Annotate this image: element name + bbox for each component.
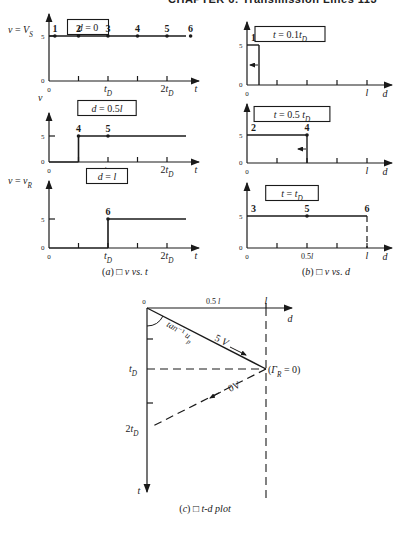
b-tick-label-l: l [366, 87, 369, 98]
a-point-label: 6 [106, 206, 111, 217]
a-caption: (a) □ v vs. t [102, 266, 148, 278]
a-tick-label-tD: tD [104, 250, 113, 265]
a-ylabel-1: v [38, 92, 43, 103]
b-tick-label-half: 0.5l [301, 252, 314, 261]
b-condition-box-2: t = tD [266, 186, 319, 203]
b-point-label: 3 [251, 203, 256, 214]
b-point-label: 2 [251, 122, 256, 133]
c-d-tick-half: 0.5 l [206, 297, 221, 306]
a-xlabel: t [195, 250, 198, 261]
b-v5-label: 5 [239, 132, 243, 140]
a-point-dot [77, 34, 81, 38]
b-point-label: 4 [305, 122, 310, 133]
a-tick-label-tD: tD [104, 83, 113, 98]
b-condition-box-1: t = 0.5 tD [254, 107, 330, 124]
a-condition-box-0: d = 0 [68, 20, 109, 35]
b-v0-label: 0 [239, 159, 243, 167]
b-v5-label: 5 [239, 42, 243, 50]
b-point-label: 6 [365, 203, 370, 214]
a-point-label: 5 [165, 23, 170, 34]
b-v0-label: 0 [239, 81, 243, 89]
b-tick-label-l: l [366, 250, 369, 261]
a-tick-label-2tD: 2tD [161, 83, 175, 98]
b-v5-label: 5 [239, 213, 243, 221]
a-condition-box-2: d = l [87, 169, 128, 184]
c-t-label: t [138, 485, 141, 496]
c-reflected-label: 0V [226, 378, 242, 393]
b-point-label: 5 [305, 203, 310, 214]
a-condition-box-2-text: d = l [98, 171, 117, 182]
b-condition-box-0: t = 0.1tD [255, 27, 325, 44]
b-point-dot [305, 214, 309, 218]
b-tick-label-l: l [366, 165, 369, 176]
a-v5-label: 5 [41, 216, 45, 224]
a-point-dot [106, 134, 110, 138]
a-condition-box-1: d = 0.5l [78, 101, 136, 116]
a-point-label: 3 [106, 23, 111, 34]
a-point-label: 6 [188, 23, 193, 34]
a-point-label: 1 [52, 23, 57, 34]
a-condition-box-1-text: d = 0.5l [92, 103, 123, 114]
b-xlabel: d [383, 166, 389, 177]
a-tick-label-2tD: 2tD [161, 164, 175, 179]
a-tick-label-2tD: 2tD [161, 250, 175, 265]
a-xlabel: t [195, 83, 198, 94]
c-caption: (c) □ t-d plot [179, 503, 231, 515]
a-point-label: 4 [135, 23, 140, 34]
a-point-label: 4 [76, 123, 81, 134]
b-origin-label: 0 [245, 253, 249, 261]
a-point-dot [106, 34, 110, 38]
a-ylabel-0: v = VS [8, 24, 33, 39]
a-point-dot [53, 34, 57, 38]
c-load-label: (ΓR = 0) [268, 364, 300, 379]
a-origin-label: 0 [47, 167, 51, 175]
a-xlabel: t [195, 164, 198, 175]
a-point-dot [165, 34, 169, 38]
a-point-dot [77, 134, 81, 138]
c-incident-line [147, 308, 266, 369]
b-origin-label: 0 [245, 90, 249, 98]
c-incident-label: 5 V [213, 332, 232, 349]
b-xlabel: d [383, 251, 389, 262]
c-reflected-arrow [210, 392, 221, 398]
c-t-tick-2tD: 2tD [126, 423, 140, 438]
a-origin-label: 0 [47, 253, 51, 261]
c-angle-label: tan⁻¹ up [164, 319, 196, 345]
c-t-tick-tD: tD [129, 363, 138, 378]
b-v0-label: 0 [239, 244, 243, 252]
a-point-dot [189, 34, 193, 38]
a-v0-label: 0 [41, 158, 45, 166]
c-d-tick-full: l [265, 295, 268, 306]
b-xlabel: d [383, 88, 389, 99]
a-v5-label: 5 [41, 33, 45, 41]
a-point-label: 2 [76, 23, 81, 34]
c-origin-label: 0 [142, 298, 146, 306]
figure-canvas: 50v = VSd = 01234560tD2tDt50vd = 0.5l450… [0, 0, 411, 533]
c-d-label: d [288, 313, 294, 324]
b-caption: (b) □ v vs. d [302, 266, 351, 278]
a-point-dot [106, 217, 110, 221]
b-point-dot [305, 133, 309, 137]
c-angle-arc [147, 316, 163, 326]
a-v0-label: 0 [41, 77, 45, 85]
a-v5-label: 5 [41, 133, 45, 141]
a-v0-label: 0 [41, 244, 45, 252]
b-point-label: 1 [251, 32, 256, 43]
a-point-label: 5 [106, 123, 111, 134]
c-reflected-line [151, 369, 266, 427]
a-origin-label: 0 [47, 86, 51, 94]
b-origin-label: 0 [245, 168, 249, 176]
a-point-dot [136, 34, 140, 38]
a-ylabel-2: v = vR [8, 175, 33, 190]
